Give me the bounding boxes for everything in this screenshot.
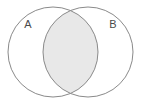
venn-diagram-canvas: A B (0, 0, 141, 107)
set-b-label: B (109, 18, 116, 30)
venn-diagram-figure: A B (0, 0, 141, 107)
set-a-label: A (24, 18, 32, 30)
